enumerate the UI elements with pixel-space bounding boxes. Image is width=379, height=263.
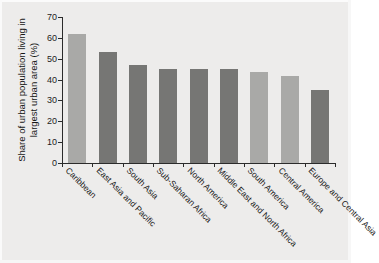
x-axis-category-label: East Asia and Pacific <box>94 166 157 229</box>
bar <box>129 65 147 163</box>
y-axis-tick-label: 60 <box>47 33 57 42</box>
bar <box>250 72 268 163</box>
y-axis-title-text: Share of urban population living in larg… <box>16 17 40 163</box>
x-axis-category-label: Caribbean <box>64 166 98 200</box>
plot-area: 010203040506070 <box>62 17 335 163</box>
bar <box>281 76 299 163</box>
y-axis-tick-label: 40 <box>47 75 57 84</box>
bar <box>220 69 238 163</box>
y-axis-tick-label: 30 <box>47 96 57 105</box>
bar <box>159 69 177 163</box>
bar <box>190 69 208 163</box>
figure-edge-right <box>348 0 351 263</box>
y-axis-tick-label: 0 <box>52 159 57 168</box>
y-axis-title: Share of urban population living in larg… <box>4 17 52 163</box>
bar <box>311 90 329 163</box>
x-axis-line <box>62 163 335 164</box>
bar-series <box>62 17 335 163</box>
figure-edge-top <box>0 0 351 2</box>
figure-edge-left <box>0 0 2 263</box>
x-axis-category-label: Sub-Saharan Africa <box>155 166 213 224</box>
y-axis-tick-label: 20 <box>47 117 57 126</box>
y-axis-tick-label: 70 <box>47 13 57 22</box>
bar <box>99 52 117 163</box>
x-axis-tick <box>335 163 336 167</box>
y-axis-tick-label: 50 <box>47 54 57 63</box>
x-axis-category-labels: CaribbeanEast Asia and PacificSouth Asia… <box>62 166 335 261</box>
bar <box>68 34 86 163</box>
y-axis-tick-label: 10 <box>47 138 57 147</box>
